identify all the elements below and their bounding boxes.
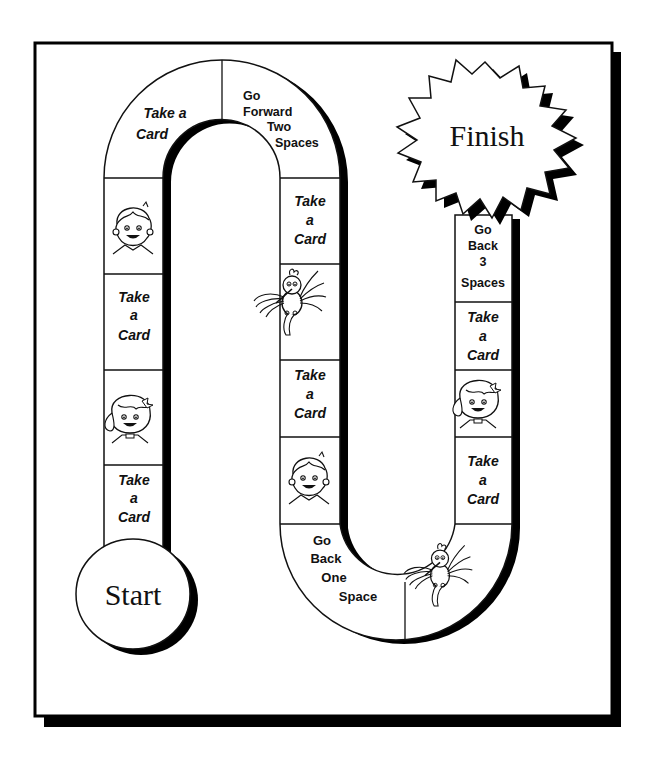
- space-label-line: Card: [467, 347, 499, 363]
- space-label-line: Go: [313, 533, 331, 548]
- space-label-line: a: [130, 490, 138, 506]
- space-label-line: Take: [467, 309, 499, 325]
- space-label-line: Forward: [243, 105, 292, 119]
- space-label-line: Card: [294, 405, 326, 421]
- space-label-line: Take a: [143, 105, 186, 121]
- space-label-line: One: [321, 570, 346, 585]
- space-label-line: Take: [294, 193, 326, 209]
- space-label-line: a: [479, 328, 487, 344]
- space-label-line: Spaces: [275, 136, 319, 150]
- space-label-line: Take: [294, 367, 326, 383]
- space-label-line: 3: [480, 255, 487, 269]
- start-label: Start: [105, 578, 162, 611]
- space-label-line: Space: [339, 589, 377, 604]
- space-label-line: a: [306, 212, 314, 228]
- space-label-line: Two: [267, 120, 291, 134]
- space-label-line: Go: [474, 223, 492, 237]
- space-label-line: Card: [294, 231, 326, 247]
- space-label-line: Card: [118, 509, 150, 525]
- space-label-line: Go: [243, 89, 261, 103]
- space-label-line: Spaces: [461, 276, 505, 290]
- space-label-line: Back: [310, 551, 342, 566]
- space-label-line: Card: [118, 327, 150, 343]
- space-label-line: Back: [468, 239, 498, 253]
- space-label-line: Take: [467, 453, 499, 469]
- space-label-line: Card: [136, 126, 168, 142]
- space-label-line: Take: [118, 472, 150, 488]
- game-board: Take a Card Go Forward Two Spaces Take a…: [0, 0, 653, 757]
- space-label-line: Card: [467, 491, 499, 507]
- finish-label: Finish: [449, 119, 524, 152]
- space-label-line: a: [306, 386, 314, 402]
- space-label-line: a: [479, 472, 487, 488]
- space-label-line: Take: [118, 289, 150, 305]
- space-label-line: a: [130, 307, 138, 323]
